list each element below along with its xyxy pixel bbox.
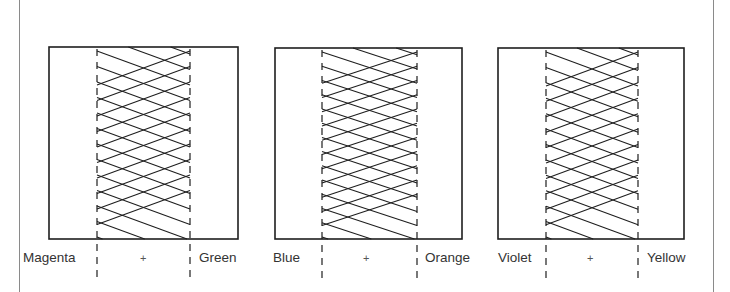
panel-1-zigzag-pattern (97, 47, 190, 239)
panel-3-frame (498, 48, 684, 239)
panel-1-operator: + (140, 252, 146, 264)
panel-2-zigzag-pattern (322, 48, 417, 239)
panel-1-frame (49, 47, 238, 239)
panel-1-left-label: Magenta (23, 250, 76, 266)
panel-3-right-label: Yellow (647, 250, 686, 266)
panel-2-right-label: Orange (425, 250, 470, 266)
panel-2-left-label: Blue (273, 250, 300, 266)
panel-3-left-label: Violet (498, 250, 532, 266)
panel-1-right-label: Green (199, 250, 237, 266)
panel-3-zigzag-pattern (546, 48, 638, 239)
panel-3-operator: + (587, 252, 593, 264)
diagram-canvas (0, 0, 730, 292)
panel-2-operator: + (363, 252, 369, 264)
